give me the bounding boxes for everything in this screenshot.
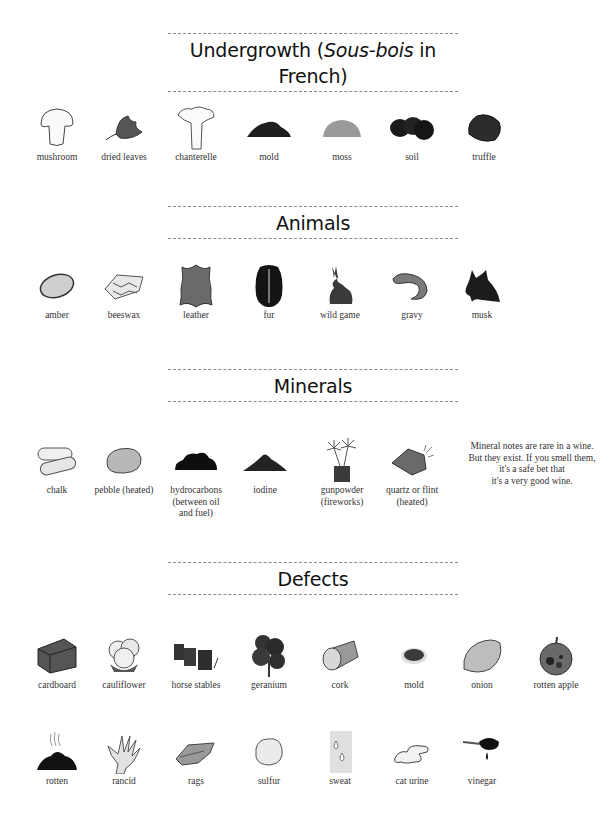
section-title-animals: Animals — [168, 207, 458, 238]
minerals-note: Mineral notes are rare in a wine. But th… — [452, 441, 612, 487]
aroma-item-wild-game: wild game — [304, 262, 376, 322]
fur-icon — [233, 262, 305, 310]
section-header-undergrowth: Undergrowth (Sous-bois in French) — [168, 33, 458, 92]
aroma-item-rancid: rancid — [88, 728, 160, 788]
chanterelle-icon — [160, 104, 232, 152]
aroma-item-leather: leather — [160, 262, 232, 322]
truffle-icon — [448, 104, 520, 152]
mold-pile-icon — [233, 104, 305, 152]
aroma-item-gunpowder: gunpowder(fireworks) — [306, 437, 378, 508]
cork-icon — [304, 632, 376, 680]
hydrocarbons-icon — [160, 437, 232, 485]
beeswax-icon — [88, 262, 160, 310]
rotten-apple-icon — [520, 632, 592, 680]
amber-icon — [21, 262, 93, 310]
aroma-item-rags: rags — [160, 728, 232, 788]
dashed-divider — [168, 91, 458, 92]
aroma-item-geranium: geranium — [233, 632, 305, 692]
aroma-item-quartz-flint: quartz or flint(heated) — [376, 437, 448, 508]
aroma-item-cork: cork — [304, 632, 376, 692]
aroma-item-mold: mold — [233, 104, 305, 164]
label-quartz-flint: quartz or flint(heated) — [376, 485, 448, 508]
aroma-item-sulfur: sulfur — [233, 728, 305, 788]
section-header-defects: Defects — [168, 562, 458, 595]
aroma-item-cat-urine: cat urine — [376, 728, 448, 788]
onion-icon — [446, 632, 518, 680]
moss-icon — [306, 104, 378, 152]
aroma-item-beeswax: beeswax — [88, 262, 160, 322]
section-title-defects: Defects — [168, 563, 458, 594]
soil-icon — [376, 104, 448, 152]
dashed-divider — [168, 401, 458, 402]
label-gunpowder: gunpowder(fireworks) — [306, 485, 378, 508]
aroma-item-chanterelle: chanterelle — [160, 104, 232, 164]
aroma-item-rotten-apple: rotten apple — [520, 632, 592, 692]
aroma-item-amber: amber — [21, 262, 93, 322]
section-title-undergrowth: Undergrowth (Sous-bois in French) — [168, 34, 458, 91]
section-title-minerals: Minerals — [168, 370, 458, 401]
aroma-item-mold-defect: mold — [378, 632, 450, 692]
aroma-item-fur: fur — [233, 262, 305, 322]
gravy-icon — [376, 262, 448, 310]
aroma-item-truffle: truffle — [448, 104, 520, 164]
section-header-minerals: Minerals — [168, 369, 458, 402]
mushroom-icon — [21, 104, 93, 152]
aroma-item-chalk: chalk — [21, 437, 93, 497]
sulfur-icon — [233, 728, 305, 776]
sweat-drops-icon — [304, 728, 376, 776]
aroma-item-cardboard: cardboard — [21, 632, 93, 692]
horse-stables-icon — [160, 632, 232, 680]
aroma-item-pebble: pebble (heated) — [88, 437, 160, 497]
section-header-animals: Animals — [168, 206, 458, 239]
geranium-icon — [233, 632, 305, 680]
aroma-item-onion: onion — [446, 632, 518, 692]
flint-icon — [376, 437, 448, 485]
rags-icon — [160, 728, 232, 776]
aroma-item-musk: musk — [446, 262, 518, 322]
dashed-divider — [168, 594, 458, 595]
aroma-item-gravy: gravy — [376, 262, 448, 322]
label-hydrocarbons: hydrocarbons(between oiland fuel) — [160, 485, 232, 520]
aroma-item-rotten: rotten — [21, 728, 93, 788]
rabbit-icon — [304, 262, 376, 310]
rotten-pile-icon — [21, 728, 93, 776]
pebble-icon — [88, 437, 160, 485]
leather-icon — [160, 262, 232, 310]
chalk-icon — [21, 437, 93, 485]
vinegar-spoon-icon — [446, 728, 518, 776]
aroma-item-cauliflower: cauliflower — [88, 632, 160, 692]
aroma-item-horse-stables: horse stables — [160, 632, 232, 692]
aroma-item-mushroom: mushroom — [21, 104, 93, 164]
aroma-item-dried-leaves: dried leaves — [88, 104, 160, 164]
dried-leaves-icon — [88, 104, 160, 152]
aroma-item-vinegar: vinegar — [446, 728, 518, 788]
mold-spot-icon — [378, 632, 450, 680]
cat-urine-icon — [376, 728, 448, 776]
aroma-item-soil: soil — [376, 104, 448, 164]
musk-animal-icon — [446, 262, 518, 310]
aroma-item-moss: moss — [306, 104, 378, 164]
aroma-item-iodine: iodine — [229, 437, 301, 497]
aroma-item-hydrocarbons: hydrocarbons(between oiland fuel) — [160, 437, 232, 520]
cardboard-box-icon — [21, 632, 93, 680]
rancid-hand-icon — [88, 728, 160, 776]
aroma-item-sweat: sweat — [304, 728, 376, 788]
dashed-divider — [168, 238, 458, 239]
fireworks-icon — [306, 437, 378, 485]
cauliflower-icon — [88, 632, 160, 680]
iodine-icon — [229, 437, 301, 485]
